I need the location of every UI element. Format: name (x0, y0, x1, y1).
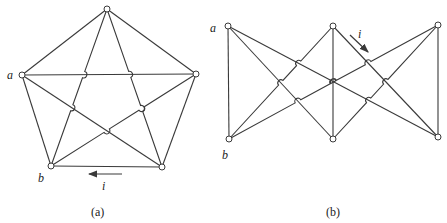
wire-T-BR (107, 9, 162, 167)
label-b-i: i (358, 28, 361, 40)
wire-R-BR (162, 74, 196, 167)
caption-b: (b) (326, 206, 340, 218)
wire-A-BR (22, 75, 162, 167)
label-b-a: a (210, 22, 216, 34)
label-a-b: b (38, 172, 44, 184)
node-A (19, 72, 25, 78)
wire-T-A (22, 9, 107, 75)
wire-R-B (51, 74, 196, 166)
wire-B-BR (51, 166, 162, 167)
node-A (225, 23, 231, 29)
label-a-a: a (7, 69, 13, 81)
node-B (226, 136, 232, 142)
circuit-diagrams (0, 0, 447, 223)
wire-A-R (22, 74, 196, 75)
wire-T-R (107, 9, 196, 74)
wire-A-B (228, 26, 229, 139)
node-R (435, 22, 441, 28)
node-BR (159, 164, 165, 170)
figure-a (19, 6, 199, 174)
label-b-b: b (222, 149, 228, 161)
wire-T-B (51, 9, 107, 166)
label-a-i: i (102, 180, 105, 192)
node-M (330, 23, 336, 29)
node-RB (435, 134, 441, 140)
node-MB (330, 136, 336, 142)
node-T (104, 6, 110, 12)
node-R (193, 71, 199, 77)
figure-b (225, 22, 441, 142)
caption-a: (a) (91, 206, 104, 218)
node-B (48, 163, 54, 169)
wire-A-B (22, 75, 51, 166)
